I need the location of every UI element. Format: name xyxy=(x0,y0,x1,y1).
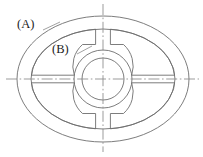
ring-segment-upper-right xyxy=(110,29,174,75)
label-a: (A) xyxy=(17,18,34,31)
figure-canvas: .ln { fill: none; stroke: #6e6e6e; strok… xyxy=(0,0,203,157)
ring-segment-lower-right xyxy=(110,83,174,129)
label-b: (B) xyxy=(52,43,69,56)
ring-segment-lower-left xyxy=(31,83,95,129)
